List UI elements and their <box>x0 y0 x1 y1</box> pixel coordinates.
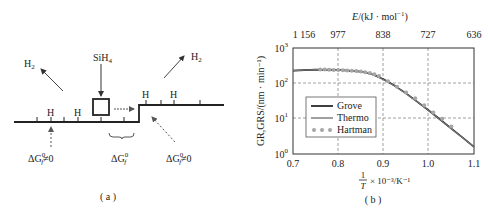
hartman-data-point <box>336 68 340 72</box>
legend: Grove Thermo Hartman <box>306 97 376 137</box>
h-atom-3: H <box>142 89 149 100</box>
surface-step-line <box>14 105 224 122</box>
svg-text:1: 1 <box>361 170 366 180</box>
hartman-data-point <box>332 68 336 72</box>
h2-right-label: H2 <box>191 51 202 64</box>
hartman-data-point <box>368 71 372 75</box>
hartman-data-point <box>323 68 327 72</box>
svg-text:838: 838 <box>376 29 391 40</box>
hartman-data-point <box>395 85 399 89</box>
h2-left-label: H2 <box>24 58 35 71</box>
hartman-data-point <box>372 72 376 76</box>
hartman-data-point <box>431 110 435 114</box>
h-atom-2: H <box>74 107 81 118</box>
hartman-data-point <box>350 69 354 73</box>
hartman-data-point <box>440 117 444 121</box>
hartman-data-point <box>359 70 363 74</box>
legend-swatch-hartman <box>312 128 332 132</box>
hartman-data-point <box>386 79 390 83</box>
legend-label-thermo: Thermo <box>337 112 369 123</box>
y-tick-labels: 100 101 102 103 <box>275 41 289 160</box>
legend-label-grove: Grove <box>337 100 363 111</box>
x-tick-labels: 0.7 0.8 0.9 1.0 1.1 <box>287 158 481 169</box>
hartman-data-point <box>413 96 417 100</box>
hartman-data-point <box>377 74 381 78</box>
dg-mid-brace <box>109 133 134 139</box>
svg-text:727: 727 <box>421 29 436 40</box>
hartman-data-point <box>363 70 367 74</box>
svg-text:636: 636 <box>467 29 482 40</box>
h-atom-1: H <box>47 107 54 118</box>
dg-right-label: ΔG0f≠0 <box>166 151 192 166</box>
svg-text:1.0: 1.0 <box>422 158 435 169</box>
svg-text:1.1: 1.1 <box>468 158 481 169</box>
svg-text:× 10⁻³/K⁻¹: × 10⁻³/K⁻¹ <box>370 176 411 186</box>
hartman-data-point <box>449 125 453 129</box>
h-atom-4: H <box>170 89 177 100</box>
sih4-adsorbed-box <box>93 99 109 115</box>
hartman-data-point <box>404 91 408 95</box>
figure-root: H H H H SiH4 H2 H2 ΔG0f≠0 ΔG0f <box>0 0 488 210</box>
hartman-data-point <box>341 68 345 72</box>
svg-text:1 156: 1 156 <box>293 29 316 40</box>
panel-a-caption: ( a ) <box>100 191 116 203</box>
h2-right-arrow <box>164 56 184 78</box>
svg-text:0.9: 0.9 <box>377 158 390 169</box>
dg-mid-label: ΔG0f <box>111 151 129 166</box>
hartman-data-point <box>327 68 331 72</box>
svg-text:0.8: 0.8 <box>332 158 345 169</box>
hartman-data-point <box>354 69 358 73</box>
svg-text:977: 977 <box>331 29 346 40</box>
svg-text:0.7: 0.7 <box>287 158 300 169</box>
sih4-label: SiH4 <box>93 52 113 65</box>
top-tick-labels: 1 156 977 838 727 636 <box>293 29 482 40</box>
hartman-data-point <box>422 103 426 107</box>
h2-left-arrow <box>41 69 63 91</box>
panel-b-chart: E/(kJ · mol−1) 1 156 977 838 727 636 Gro… <box>255 10 482 206</box>
svg-text:103: 103 <box>275 41 289 54</box>
svg-text:101: 101 <box>275 111 289 124</box>
hartman-data-point <box>345 68 349 72</box>
top-axis-title: E/(kJ · mol−1) <box>351 10 408 23</box>
svg-text:102: 102 <box>275 76 289 89</box>
y-axis-title: GR,GRS/(nm · min⁻¹) <box>255 56 267 146</box>
x-axis-title: 1 T × 10⁻³/K⁻¹ <box>359 170 411 191</box>
dg-right-dashed-arrow <box>152 117 175 142</box>
hartman-data-point <box>318 68 322 72</box>
panel-a-diagram: H H H H SiH4 H2 H2 ΔG0f≠0 ΔG0f <box>14 51 224 203</box>
legend-label-hartman: Hartman <box>337 124 372 135</box>
panel-b-caption: ( b ) <box>365 194 382 206</box>
dg-left-label: ΔG0f≠0 <box>28 151 54 166</box>
svg-text:T: T <box>360 181 366 191</box>
